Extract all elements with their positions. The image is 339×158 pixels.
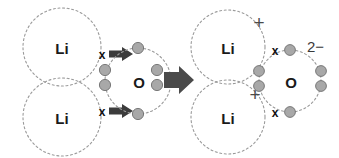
- electron-dot: [285, 107, 296, 118]
- electron-dot: [151, 64, 162, 75]
- electron-dot: [151, 79, 162, 90]
- electron-dot: [99, 64, 110, 75]
- transfer-arrow-top-icon: [109, 47, 133, 61]
- atom-li-bottom-left: Li x: [23, 78, 106, 156]
- ion-li-bottom-right: Li +: [191, 80, 265, 154]
- electron-dot: [285, 45, 296, 56]
- electron-dot: [254, 66, 265, 77]
- electron-dot: [316, 81, 327, 92]
- charge-label-2minus: 2−: [307, 38, 324, 55]
- transferred-electron-cross-icon: x: [272, 44, 279, 58]
- electron-dot: [99, 79, 110, 90]
- atom-label-li: Li: [221, 110, 234, 127]
- electron-dot: [132, 108, 143, 119]
- atom-label-li: Li: [55, 110, 68, 127]
- electron-dot: [316, 66, 327, 77]
- atom-label-o: O: [285, 74, 297, 91]
- dot-and-cross-diagram: Li x Li x O: [0, 0, 339, 158]
- atom-li-top-left: Li x: [23, 8, 106, 86]
- transferred-electron-cross-icon: x: [272, 106, 279, 120]
- diagram-canvas: Li x Li x O: [0, 0, 339, 158]
- electron-dot: [254, 81, 265, 92]
- atom-label-li: Li: [221, 40, 234, 57]
- charge-label-plus: +: [253, 12, 264, 33]
- atom-label-o: O: [133, 74, 145, 91]
- ion-oxide: O x x 2−: [254, 38, 327, 121]
- transfer-arrow-bottom-icon: [109, 104, 133, 118]
- atom-label-li: Li: [55, 40, 68, 57]
- reaction-arrow-icon: [164, 66, 194, 94]
- electron-dot: [132, 42, 143, 53]
- reactants-group: Li x Li x O: [23, 8, 171, 156]
- products-group: Li + Li + O x x 2−: [191, 10, 326, 154]
- valence-cross-icon: x: [99, 105, 106, 119]
- valence-cross-icon: x: [99, 48, 106, 62]
